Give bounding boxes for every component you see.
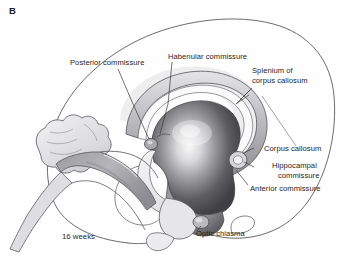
label-hippocampal-line1: Hippocampal — [272, 161, 317, 170]
stage-caption: 16 weeks — [62, 232, 95, 241]
label-optic-chiasma: Optic chiasma — [196, 229, 245, 238]
label-anterior-commissure: Anterior commissure — [250, 184, 321, 193]
label-corpus-callosum: Corpus callosum — [264, 144, 321, 153]
anterior-commissure-nodule — [229, 152, 247, 169]
figure-panel-b: B Posterior commissure Habenular commiss… — [0, 0, 359, 257]
label-habenular-commissure: Habenular commissure — [168, 52, 247, 61]
panel-label: B — [9, 5, 16, 16]
label-splenium-line2: corpus callosum — [252, 76, 308, 85]
brain-sagittal-illustration — [0, 0, 359, 257]
label-posterior-commissure: Posterior commissure — [70, 58, 144, 67]
label-hippocampal-line2: commissure — [278, 171, 319, 180]
label-splenium-line1: Splenium of — [252, 66, 293, 75]
leader-anterior-commissure — [236, 170, 248, 185]
